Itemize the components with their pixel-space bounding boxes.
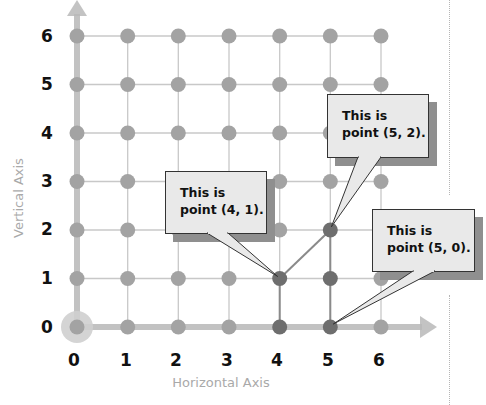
grid-point (70, 126, 85, 141)
x-tick-1: 1 (120, 352, 132, 369)
grid-point (323, 174, 338, 189)
x-tick-3: 3 (221, 352, 233, 369)
grid-point (222, 320, 237, 335)
x-tick-2: 2 (170, 352, 182, 369)
y-tick-2: 2 (41, 221, 53, 238)
grid-point (70, 223, 85, 238)
grid-point (70, 320, 85, 335)
grid-point (171, 126, 186, 141)
x-tick-4: 4 (271, 352, 283, 369)
grid-point (120, 126, 135, 141)
grid-point (272, 77, 287, 92)
vertical-axis-title: Vertical Axis (12, 158, 25, 238)
grid-point (222, 126, 237, 141)
grid-point (222, 271, 237, 286)
grid-point (120, 29, 135, 44)
y-tick-6: 6 (41, 28, 53, 45)
margin-divider-bottom (449, 295, 450, 405)
grid-point-highlighted (272, 271, 287, 286)
grid-point (120, 271, 135, 286)
margin-divider-top (449, 0, 450, 195)
grid-point (222, 77, 237, 92)
grid-point (171, 320, 186, 335)
grid-point-highlighted (323, 271, 338, 286)
grid-point (70, 174, 85, 189)
grid-point (70, 271, 85, 286)
grid-point-highlighted (272, 320, 287, 335)
grid-point (323, 77, 338, 92)
y-tick-4: 4 (41, 125, 53, 142)
grid-point (171, 29, 186, 44)
grid-point (374, 174, 389, 189)
x-tick-6: 6 (373, 352, 385, 369)
grid-point (323, 29, 338, 44)
callout-text-line2: point (5, 0). (387, 239, 474, 256)
horizontal-axis-title: Horizontal Axis (172, 376, 269, 389)
grid-point (70, 29, 85, 44)
grid-point (272, 29, 287, 44)
grid-point (374, 77, 389, 92)
horizontal-axis-arrow-icon (420, 316, 437, 338)
grid-point (171, 271, 186, 286)
callout-point-5-2: This is point (5, 2). (327, 94, 429, 158)
callout-text-line1: This is (387, 222, 474, 239)
grid-point (70, 77, 85, 92)
callout-text-line1: This is (342, 107, 428, 124)
x-tick-5: 5 (322, 352, 334, 369)
x-tick-0: 0 (68, 352, 80, 369)
grid-point (120, 174, 135, 189)
y-tick-1: 1 (41, 270, 53, 287)
grid-point (120, 77, 135, 92)
vertical-axis-arrow-icon (67, 0, 87, 16)
grid-point (171, 77, 186, 92)
callout-text-line2: point (5, 2). (342, 124, 428, 141)
highlighted-path (280, 230, 331, 279)
grid-point-highlighted (323, 320, 338, 335)
grid-point (222, 29, 237, 44)
callout-point-4-1: This is point (4, 1). (165, 171, 267, 234)
y-tick-3: 3 (41, 173, 53, 190)
grid-point (120, 223, 135, 238)
callout-text-line2: point (4, 1). (180, 201, 266, 218)
grid-point (272, 126, 287, 141)
callout-point-5-0: This is point (5, 0). (372, 209, 475, 272)
grid-point-highlighted (323, 223, 338, 238)
grid-point (374, 29, 389, 44)
grid-point (272, 223, 287, 238)
y-tick-0: 0 (41, 319, 53, 336)
callout-text-line1: This is (180, 184, 266, 201)
y-tick-5: 5 (41, 76, 53, 93)
grid-point (374, 271, 389, 286)
grid-point (120, 320, 135, 335)
grid-point (272, 174, 287, 189)
coordinate-grid-diagram: 0 1 2 3 4 5 6 0 1 2 3 4 5 6 Horizontal A… (0, 0, 486, 405)
grid-point (374, 320, 389, 335)
